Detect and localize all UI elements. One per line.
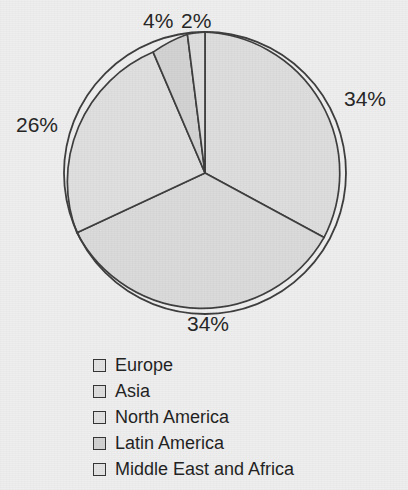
legend-item-label: Middle East and Africa	[115, 460, 294, 478]
legend-item-label: North America	[115, 408, 229, 426]
legend-item-label: Latin America	[115, 434, 224, 452]
pie-chart-plot-area: 34% 34% 26% 4% 2%	[0, 0, 408, 340]
legend-swatch-icon	[93, 437, 106, 450]
legend-item-label: Asia	[115, 382, 150, 400]
legend-item-label: Europe	[115, 356, 173, 374]
legend-swatch-icon	[93, 463, 106, 476]
legend-item-middle-east-and-africa[interactable]: Middle East and Africa	[93, 456, 393, 482]
slice-value-label-middle-east-and-africa: 2%	[181, 10, 211, 31]
legend-item-latin-america[interactable]: Latin America	[93, 430, 393, 456]
legend-item-north-america[interactable]: North America	[93, 404, 393, 430]
pie-chart-figure: 34% 34% 26% 4% 2% Europe Asia North Amer…	[0, 0, 408, 490]
legend-item-europe[interactable]: Europe	[93, 352, 393, 378]
legend-item-asia[interactable]: Asia	[93, 378, 393, 404]
legend-swatch-icon	[93, 385, 106, 398]
slice-value-label-asia: 34%	[187, 313, 229, 334]
pie-chart-svg	[0, 0, 408, 340]
slice-value-label-europe: 34%	[344, 88, 386, 109]
legend-swatch-icon	[93, 411, 106, 424]
chart-legend: Europe Asia North America Latin America …	[93, 352, 393, 482]
legend-swatch-icon	[93, 359, 106, 372]
slice-value-label-latin-america: 4%	[143, 10, 173, 31]
slice-value-label-north-america: 26%	[16, 114, 58, 135]
